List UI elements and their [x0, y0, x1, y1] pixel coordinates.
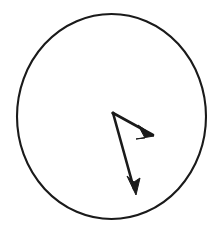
canvas-background — [0, 0, 220, 233]
geometry-diagram-svg — [0, 0, 220, 233]
vector-origin-point — [111, 111, 114, 114]
figure-canvas — [0, 0, 220, 233]
